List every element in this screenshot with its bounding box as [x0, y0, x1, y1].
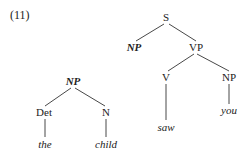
node-s: S	[163, 12, 169, 23]
edge-np-det	[45, 88, 71, 106]
node-subject-np: NP	[127, 42, 142, 53]
node-n: N	[102, 107, 110, 118]
leaf-the: the	[38, 139, 51, 150]
edge-s-np	[136, 24, 164, 41]
leaf-you: you	[221, 105, 237, 116]
leaf-saw: saw	[157, 122, 174, 133]
tree-edges	[0, 0, 248, 155]
node-left-np: NP	[66, 76, 81, 87]
edge-vp-np	[197, 54, 229, 71]
node-object-np: NP	[222, 72, 236, 83]
leaf-child: child	[95, 139, 117, 150]
edge-np-n	[75, 88, 105, 106]
node-v: V	[162, 72, 170, 83]
edge-vp-v	[168, 54, 194, 71]
node-det: Det	[36, 107, 52, 118]
edge-s-vp	[169, 24, 196, 41]
node-vp: VP	[189, 42, 203, 53]
